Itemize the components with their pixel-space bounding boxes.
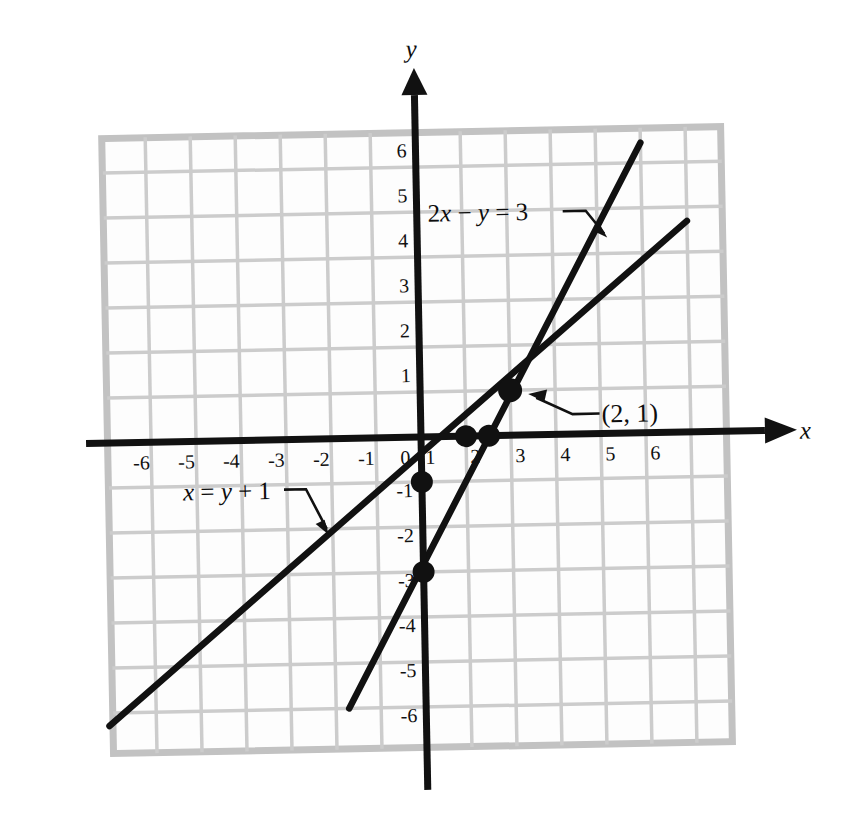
x-tick-label: 3: [515, 444, 525, 466]
x-tick-label: -5: [178, 450, 195, 472]
x-tick-label: 6: [650, 441, 660, 463]
y-tick-label: 2: [400, 319, 410, 341]
graph-canvas: x y -6 -5 -4 -3 -2 -1 0 1 2 3 4 5 6 6 5 …: [0, 0, 849, 832]
y-tick-label: -4: [399, 614, 416, 636]
y-tick-label: 5: [397, 184, 407, 206]
x-tick-label-zero: 0: [400, 446, 410, 468]
annotation-line2-label: x = y + 1: [182, 477, 271, 506]
x-tick-label: 4: [560, 443, 570, 465]
y-tick-label: 1: [401, 364, 411, 386]
y-tick-label: -6: [400, 704, 417, 726]
x-tick-label: -2: [313, 448, 330, 470]
x-tick-label: 5: [605, 442, 615, 464]
y-tick-label: -3: [398, 569, 415, 591]
x-tick-label: -1: [358, 447, 375, 469]
x-tick-label: 1: [425, 446, 435, 468]
x-tick-label: -3: [268, 449, 285, 471]
y-tick-label: 3: [399, 274, 409, 296]
y-tick-label: 6: [396, 139, 406, 161]
y-tick-label: -2: [397, 524, 414, 546]
x-tick-label: -6: [133, 451, 150, 473]
y-tick-label: 4: [398, 229, 408, 251]
coordinate-graph-figure: x y -6 -5 -4 -3 -2 -1 0 1 2 3 4 5 6 6 5 …: [0, 0, 849, 832]
y-tick-label: -5: [400, 659, 417, 681]
annotation-line1-label: 2x − y = 3: [427, 198, 528, 227]
y-tick-label: -1: [396, 479, 413, 501]
x-tick-label: -4: [223, 449, 240, 471]
annotation-point-label: (2, 1): [601, 398, 658, 428]
graph-body: x y -6 -5 -4 -3 -2 -1 0 1 2 3 4 5 6 6 5 …: [78, 28, 817, 797]
x-tick-label: 2: [470, 445, 480, 467]
x-axis-label: x: [799, 417, 812, 444]
